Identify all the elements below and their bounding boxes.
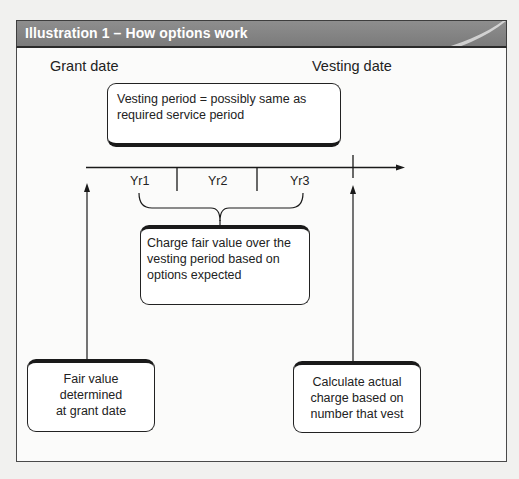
calculate-actual-text: Calculate actual charge based on number … xyxy=(298,374,416,422)
calculate-actual-box: Calculate actual charge based on number … xyxy=(293,361,421,433)
fair-value-grant-text: Fair value determined at grant date xyxy=(32,371,150,419)
year-label-2: Yr2 xyxy=(208,174,227,188)
year-label-3: Yr3 xyxy=(290,174,309,188)
timeline-arrowhead-icon xyxy=(396,165,405,171)
charge-fair-value-box: Charge fair value over the vesting perio… xyxy=(140,225,310,305)
charge-fair-value-text: Charge fair value over the vesting perio… xyxy=(147,235,303,283)
fair-value-grant-box: Fair value determined at grant date xyxy=(27,359,155,432)
years-brace-icon xyxy=(139,193,303,221)
vesting-arrow-up-icon xyxy=(350,185,356,194)
grant-arrow-up-icon xyxy=(84,183,90,192)
year-label-1: Yr1 xyxy=(130,174,149,188)
